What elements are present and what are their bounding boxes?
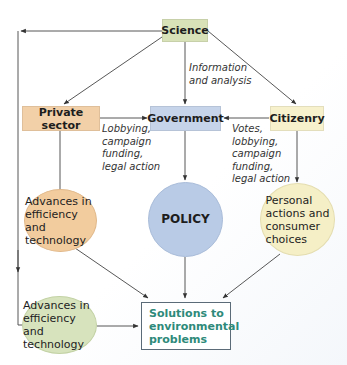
- node-solutions-label: Solutions to environmental problems: [149, 307, 239, 346]
- node-advances-private[interactable]: Advances in efficiency and technology: [24, 189, 97, 252]
- node-solutions[interactable]: Solutions to environmental problems: [141, 302, 231, 350]
- node-personal-actions-label: Personal actions and consumer choices: [266, 194, 330, 246]
- edge-science-private: [64, 37, 162, 104]
- label-information-analysis: Information and analysis: [189, 62, 251, 87]
- node-advances-science-label: Advances in efficiency and technology: [23, 299, 96, 351]
- node-private-sector[interactable]: Private sector: [22, 106, 100, 131]
- node-advances-science[interactable]: Advances in efficiency and technology: [22, 296, 97, 354]
- node-advances-private-label: Advances in efficiency and technology: [25, 195, 96, 247]
- label-private-lobbying: Lobbying, campaign funding, legal action: [102, 123, 160, 173]
- node-personal-actions[interactable]: Personal actions and consumer choices: [260, 183, 335, 256]
- node-science[interactable]: Science: [162, 19, 208, 42]
- node-science-label: Science: [161, 24, 209, 37]
- edge-advances-solutions: [75, 248, 148, 298]
- node-policy-label: POLICY: [161, 213, 210, 226]
- node-government[interactable]: Government: [150, 106, 221, 131]
- edge-personal-solutions: [223, 254, 280, 298]
- node-policy[interactable]: POLICY: [148, 182, 223, 257]
- label-citizen-votes: Votes, lobbying, campaign funding, legal…: [232, 123, 290, 186]
- node-private-sector-label: Private sector: [23, 106, 99, 132]
- edge-left-vertical: [18, 31, 26, 325]
